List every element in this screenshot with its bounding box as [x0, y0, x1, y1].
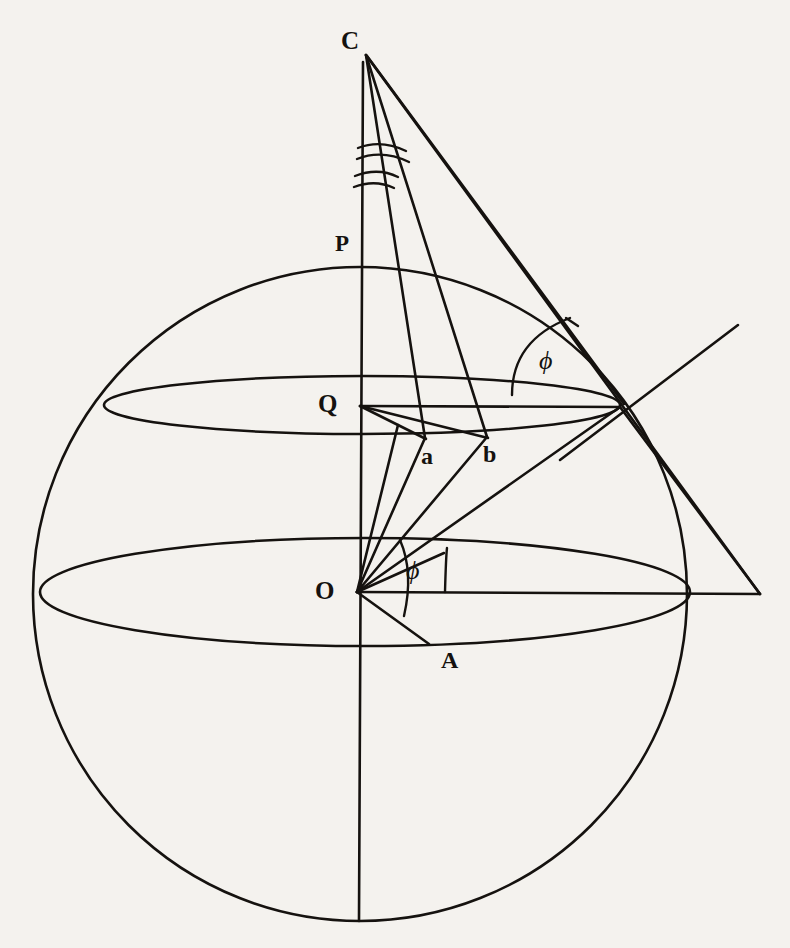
tangent-ray-lower-segment: [620, 407, 760, 594]
line-q-to-tangent-horizontal: [360, 406, 620, 407]
label-point-a: a: [421, 444, 433, 468]
geometry-drawing: [0, 0, 790, 948]
line-c-to-b: [366, 55, 487, 437]
label-angle-phi-bottom: ϕ: [406, 558, 419, 584]
line-o-to-point-A: [357, 592, 429, 644]
figure-canvas: C P Q O a b A ϕ ϕ: [0, 0, 790, 948]
label-point-Q: Q: [318, 391, 337, 416]
phi-arc-bottom-outer: [445, 548, 447, 592]
phi-arc-top-tick: [566, 318, 578, 326]
label-point-A: A: [441, 648, 458, 672]
tick-arc-1: [358, 144, 406, 151]
tick-arc-4: [354, 183, 394, 188]
label-point-C: C: [341, 28, 359, 53]
line-o-to-phi-arc-foot: [357, 553, 444, 592]
label-angle-phi-top: ϕ: [539, 348, 552, 374]
label-point-O: O: [315, 578, 334, 603]
label-point-b: b: [483, 442, 496, 466]
label-point-P: P: [335, 232, 349, 255]
line-c-to-tangent-point: [367, 56, 624, 404]
polar-axis-line: [359, 62, 363, 921]
line-o-horizontal-to-vertex: [357, 592, 760, 594]
line-c-to-a: [366, 55, 425, 438]
